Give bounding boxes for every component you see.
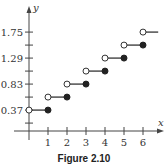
step-series [26, 29, 158, 113]
y-axis-label: y [32, 2, 39, 13]
closed-point-icon [83, 81, 89, 87]
closed-point-icon [45, 107, 51, 113]
figure-caption: Figure 2.10 [0, 153, 168, 164]
y-tick-label: 1.29 [1, 53, 23, 64]
x-tick-label: 1 [45, 137, 51, 148]
y-tick-label: 1.75 [1, 27, 23, 38]
y-axis-arrow-icon [27, 6, 32, 13]
axes [14, 6, 164, 140]
y-tick-label: 0.83 [1, 79, 23, 90]
tick-labels: xy1234560.370.831.291.75 [1, 2, 164, 148]
step-chart: xy1234560.370.831.291.75 [0, 0, 168, 164]
open-point-icon [83, 68, 89, 74]
x-axis-arrow-icon [157, 129, 164, 134]
open-point-icon [121, 42, 127, 48]
open-point-icon [140, 29, 146, 35]
open-point-icon [45, 94, 51, 100]
x-tick-label: 4 [102, 137, 108, 148]
y-tick-label: 0.37 [1, 105, 23, 116]
open-point-icon [64, 81, 70, 87]
x-tick-label: 3 [83, 137, 89, 148]
x-tick-label: 6 [140, 137, 146, 148]
closed-point-icon [102, 68, 108, 74]
closed-point-icon [64, 94, 70, 100]
open-point-icon [102, 55, 108, 61]
x-axis-label: x [158, 117, 164, 128]
x-tick-label: 5 [121, 137, 127, 148]
closed-point-icon [140, 42, 146, 48]
closed-point-icon [121, 55, 127, 61]
x-tick-label: 2 [64, 137, 70, 148]
open-point-icon [26, 107, 32, 113]
